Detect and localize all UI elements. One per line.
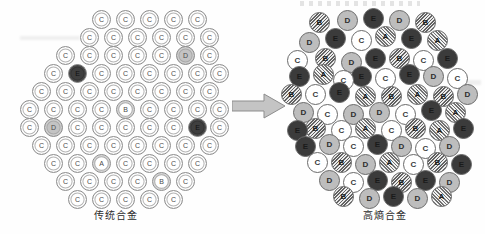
atom-c: C [20, 100, 39, 119]
atom-label: D [447, 143, 453, 151]
atom-label: B [441, 93, 447, 101]
atom-label: C [111, 178, 116, 185]
atom-label: D [447, 179, 453, 187]
atom-label: D [307, 39, 313, 47]
atom-label: E [297, 73, 302, 81]
atom-c: C [128, 136, 147, 155]
atom-label: C [123, 16, 128, 23]
conventional-alloy-lattice: CCCCCCCCCCCCCCCCDCCECCCCCCCCCCCCCCCCCCBC… [0, 0, 232, 205]
atom-label: C [217, 106, 222, 113]
atom-label: C [99, 70, 104, 77]
atom-d: D [359, 188, 380, 209]
atom-c: C [92, 10, 111, 29]
atom-label: C [183, 178, 188, 185]
atom-label: D [367, 195, 373, 203]
atom-c: C [128, 82, 147, 101]
atom-d: D [299, 32, 320, 53]
atom-e: E [365, 48, 386, 69]
atom-label: D [183, 52, 188, 59]
atom-label: C [389, 127, 395, 135]
atom-label: C [111, 142, 116, 149]
atom-label: C [75, 196, 80, 203]
atom-label: C [63, 52, 68, 59]
atom-e: E [188, 118, 207, 137]
atom-label: C [51, 106, 56, 113]
atom-label: E [375, 177, 380, 185]
atom-label: D [351, 111, 357, 119]
atom-label: C [75, 106, 80, 113]
atom-label: A [387, 159, 393, 167]
atom-c: C [68, 154, 87, 173]
atom-label: C [99, 196, 104, 203]
atom-label: C [147, 160, 152, 167]
atom-label: C [111, 88, 116, 95]
atom-label: D [431, 73, 437, 81]
atom-d: D [44, 118, 63, 137]
atom-label: C [75, 160, 80, 167]
atom-label: C [123, 196, 128, 203]
atom-label: C [455, 75, 461, 83]
atom-a: A [379, 152, 400, 173]
atom-label: D [399, 143, 405, 151]
atom-e: E [401, 28, 422, 49]
atom-label: E [371, 15, 376, 23]
atom-label: A [321, 71, 327, 79]
atom-label: A [437, 127, 443, 135]
atom-c: C [80, 28, 99, 47]
atom-label: C [159, 52, 164, 59]
atom-c: C [305, 84, 326, 105]
atom-label: C [171, 70, 176, 77]
atom-label: C [99, 124, 104, 131]
atom-c: C [188, 154, 207, 173]
atom-a: A [375, 26, 396, 47]
atom-label: C [87, 88, 92, 95]
atom-c: C [210, 100, 229, 119]
atom-c: C [32, 82, 51, 101]
atom-label: D [363, 161, 369, 169]
atom-label: C [195, 16, 200, 23]
atom-label: C [351, 143, 357, 151]
atom-label: E [333, 35, 338, 43]
atom-b: B [331, 152, 352, 173]
atom-c: C [152, 28, 171, 47]
atom-label: B [313, 125, 319, 133]
atom-label: C [183, 34, 188, 41]
atom-label: C [351, 179, 357, 187]
atom-label: C [147, 70, 152, 77]
atom-c: C [116, 64, 135, 83]
atom-c: C [44, 154, 63, 173]
atom-c: C [116, 10, 135, 29]
atom-c: C [164, 64, 183, 83]
atom-label: D [327, 141, 333, 149]
atom-label: D [345, 17, 351, 25]
atom-c: C [104, 46, 123, 65]
atom-label: C [87, 142, 92, 149]
atom-c: C [44, 100, 63, 119]
atom-label: B [423, 19, 429, 27]
atom-label: C [99, 16, 104, 23]
atom-label: C [87, 52, 92, 59]
transformation-arrow [232, 93, 286, 119]
atom-label: C [171, 196, 176, 203]
atom-c: C [152, 136, 171, 155]
atom-label: C [325, 111, 331, 119]
atom-label: E [359, 73, 364, 81]
atom-label: C [123, 160, 128, 167]
atom-label: D [301, 109, 307, 117]
atom-label: C [195, 106, 200, 113]
atom-label: C [195, 160, 200, 167]
atom-a: A [431, 186, 452, 207]
atom-b: B [116, 100, 135, 119]
atom-label: B [399, 179, 405, 187]
atom-c: C [200, 136, 219, 155]
atom-label: E [195, 124, 200, 131]
atom-label: A [99, 160, 104, 167]
atom-label: E [373, 55, 378, 63]
atom-c: C [80, 136, 99, 155]
atom-b: B [427, 152, 448, 173]
atom-c: C [164, 154, 183, 173]
atom-label: C [135, 178, 140, 185]
atom-label: C [315, 159, 321, 167]
atom-c: C [176, 28, 195, 47]
atom-label: D [415, 195, 421, 203]
